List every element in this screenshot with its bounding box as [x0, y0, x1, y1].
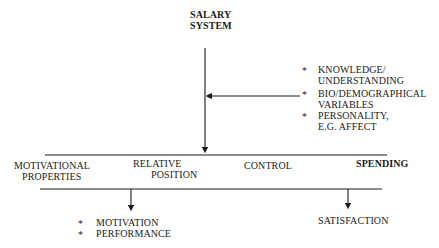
influence-bio-line2: VARIABLES [318, 99, 426, 110]
salary-system-line2: SYSTEM [190, 20, 232, 31]
influence-personality: PERSONALITY, E.G. AFFECT [318, 110, 389, 132]
heading-line1: MOTIVATIONAL [14, 160, 90, 171]
influence-knowledge: KNOWLEDGE/ UNDERSTANDING [318, 64, 404, 86]
bullet-icon: * [78, 229, 83, 240]
control-label: CONTROL [244, 160, 292, 171]
bullet-icon: * [302, 111, 307, 122]
influence-biodemographical: BIO/DEMOGRAPHICAL VARIABLES [318, 88, 426, 110]
property-relative-position: RELATIVE POSITION [133, 158, 197, 180]
relative-line2: POSITION [133, 169, 197, 180]
influence-knowledge-line2: UNDERSTANDING [318, 75, 404, 86]
salary-system-line1: SALARY [190, 9, 232, 20]
relative-line1: RELATIVE [133, 158, 197, 169]
influence-personality-line1: PERSONALITY, [318, 110, 389, 121]
salary-system-node: SALARY SYSTEM [190, 9, 232, 31]
heading-line2: PROPERTIES [14, 171, 90, 182]
outcome-motivation: MOTIVATION [96, 217, 158, 228]
bullet-icon: * [78, 218, 83, 229]
influence-bio-line1: BIO/DEMOGRAPHICAL [318, 88, 426, 99]
motivational-properties-heading: MOTIVATIONAL PROPERTIES [14, 160, 90, 182]
influence-knowledge-line1: KNOWLEDGE/ [318, 64, 404, 75]
outcome-satisfaction: SATISFACTION [318, 215, 388, 226]
property-spending: SPENDING [356, 158, 408, 169]
spending-label: SPENDING [356, 158, 408, 169]
bullet-icon: * [302, 89, 307, 100]
bullet-icon: * [302, 65, 307, 76]
outcome-performance: PERFORMANCE [96, 228, 171, 239]
influence-personality-line2: E.G. AFFECT [318, 121, 389, 132]
property-control: CONTROL [244, 160, 292, 171]
